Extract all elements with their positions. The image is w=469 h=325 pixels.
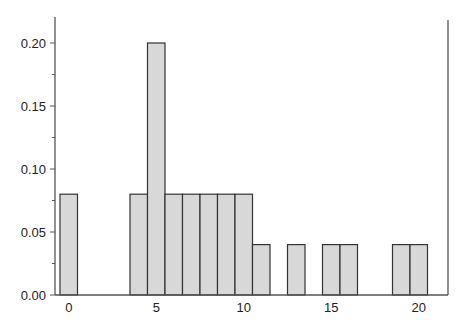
histogram-bar [60, 194, 78, 295]
histogram-bar [288, 245, 306, 295]
y-tick-label: 0.10 [21, 162, 46, 177]
histogram-bar [410, 245, 428, 295]
histogram-bar [130, 194, 148, 295]
y-tick-label: 0.20 [21, 36, 46, 51]
y-tick-label: 0.15 [21, 99, 46, 114]
x-tick-label: 10 [237, 300, 251, 315]
histogram-bar [165, 194, 183, 295]
histogram-bar [323, 245, 341, 295]
histogram-bar [253, 245, 271, 295]
histogram-bar [183, 194, 201, 295]
y-tick-label: 0.00 [21, 288, 46, 303]
histogram-bar [218, 194, 236, 295]
x-tick-label: 5 [153, 300, 160, 315]
histogram-bar [200, 194, 218, 295]
x-tick-label: 0 [65, 300, 72, 315]
histogram-bar [340, 245, 358, 295]
x-tick-label: 20 [412, 300, 426, 315]
histogram-chart: 0.000.050.100.150.20 05101520 [0, 0, 469, 325]
y-tick-label: 0.05 [21, 225, 46, 240]
x-tick-label: 15 [324, 300, 338, 315]
histogram-bar [148, 43, 166, 295]
bars-group [60, 43, 428, 295]
histogram-bar [393, 245, 411, 295]
x-axis: 05101520 [55, 295, 448, 315]
histogram-bar [235, 194, 253, 295]
